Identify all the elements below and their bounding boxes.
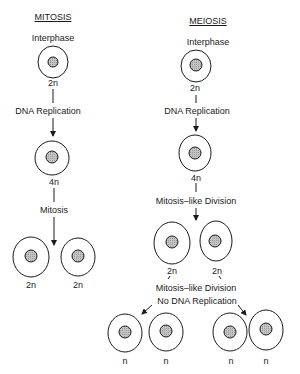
meiosis-replicated-cell — [179, 135, 211, 171]
mitosis-daughter-cell — [13, 237, 49, 277]
meiosis-interphase-cell — [181, 50, 211, 82]
cell-division-diagram — [0, 0, 300, 374]
mitosis-replicated-cell — [35, 141, 69, 175]
meiosis-gamete-cell — [149, 313, 183, 351]
mitosis-daughter-cell — [61, 238, 95, 276]
meiosis-gamete-cell — [249, 310, 283, 350]
meiosis-intermediate-cell — [200, 221, 232, 261]
arrow-icon — [142, 305, 152, 314]
meiosis-gamete-cell — [108, 314, 142, 352]
meiosis-intermediate-cell — [154, 222, 190, 264]
arrow-icon — [238, 305, 246, 315]
mitosis-interphase-cell — [38, 46, 68, 78]
meiosis-gamete-cell — [213, 313, 247, 351]
